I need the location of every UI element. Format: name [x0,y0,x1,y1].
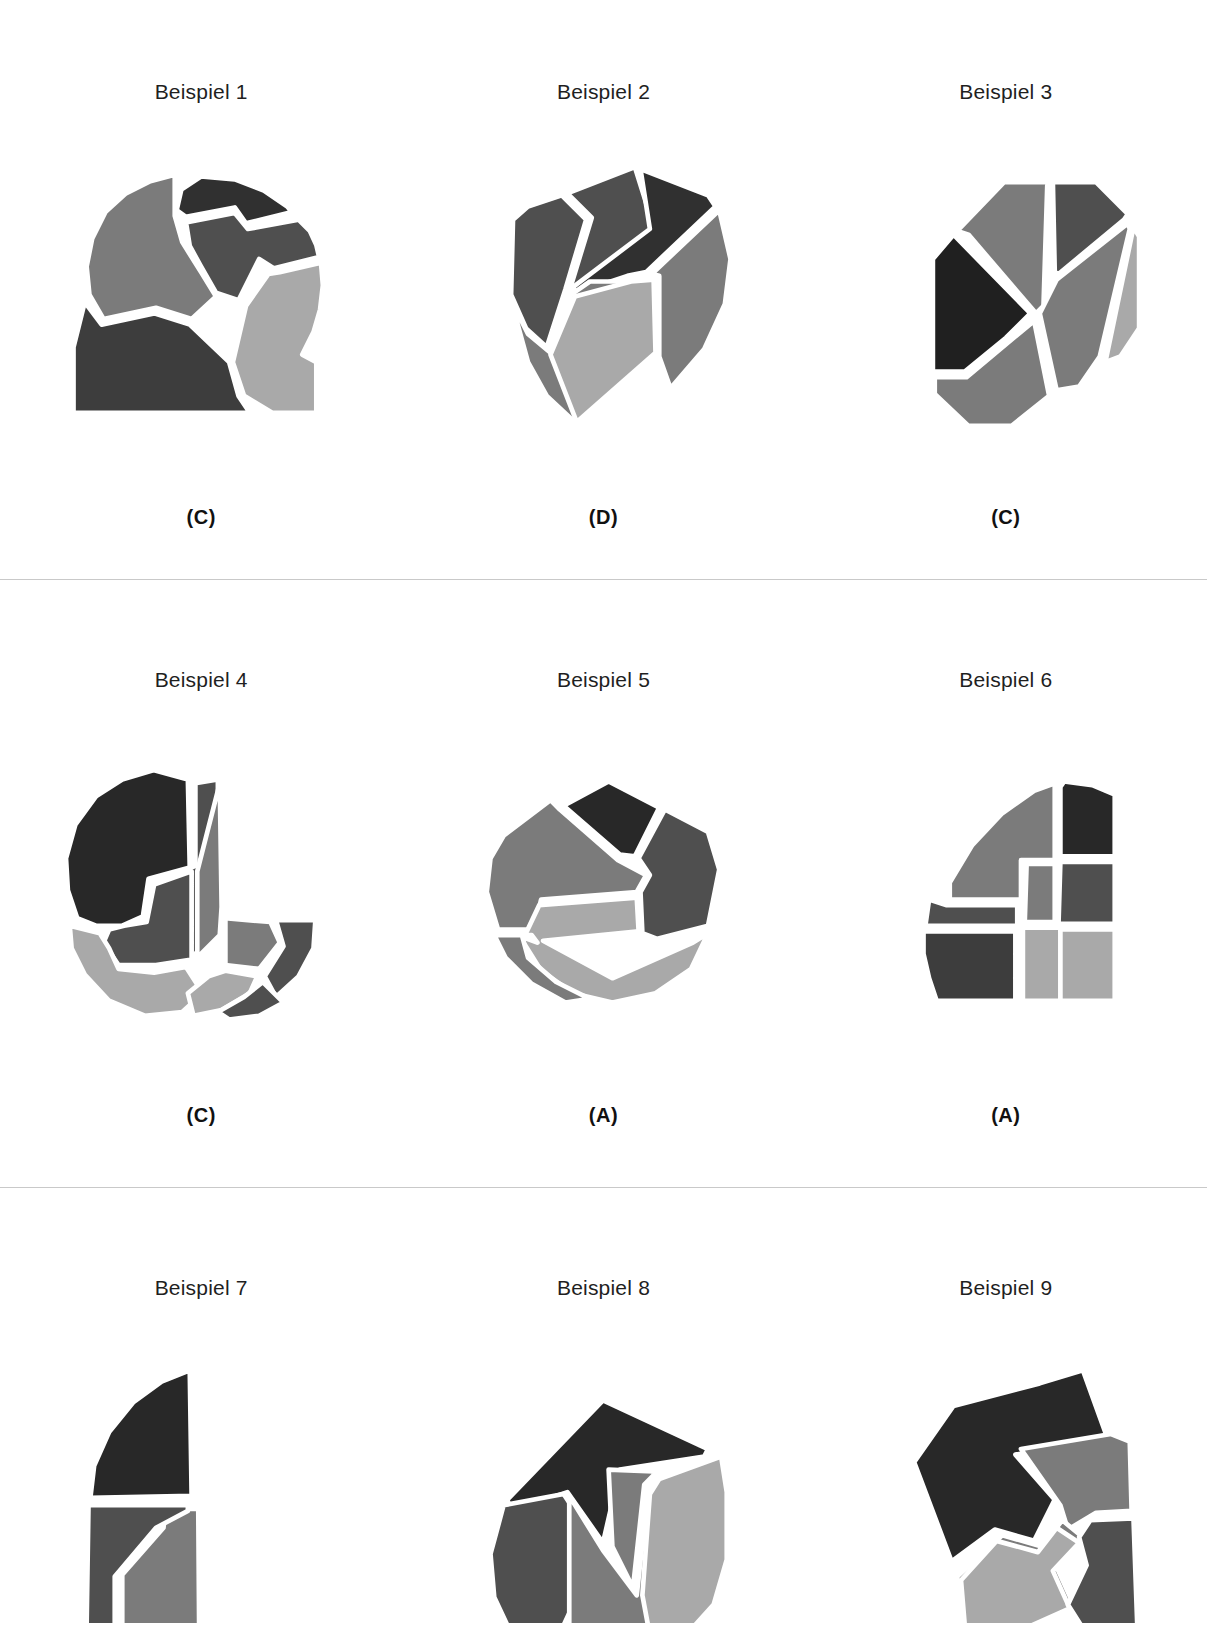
puzzle-piece [925,900,1017,926]
example-answer: (A) [991,1104,1020,1127]
irregular-puzzle-svg [856,1344,1156,1644]
pacman-disc-puzzle-svg [51,742,351,1042]
decagon-puzzle-svg [453,154,753,454]
example-figure-7 [51,1344,351,1644]
example-title: Beispiel 8 [557,1276,650,1300]
example-figure-2 [453,154,753,454]
example-cell-7: Beispiel 7 [0,1188,402,1646]
example-cell-8: Beispiel 8 [402,1188,804,1646]
puzzle-piece [1060,930,1114,1001]
puzzle-piece [551,280,656,423]
example-title: Beispiel 5 [557,668,650,692]
example-answer: (D) [589,506,618,529]
example-cell-4: Beispiel 4 (C) [0,580,402,1188]
example-figure-5 [453,742,753,1042]
example-figure-1 [51,154,351,454]
example-answer: (C) [187,506,216,529]
example-title: Beispiel 6 [959,668,1052,692]
puzzle-piece [1068,1518,1137,1625]
example-figure-4 [51,742,351,1042]
example-figure-8 [453,1344,753,1644]
example-cell-6: Beispiel 6 (A) [805,580,1207,1188]
examples-grid: Beispiel 1 (C) Beispiel 2 (D) Beispiel 3… [0,8,1207,1646]
puzzle-piece [923,931,1015,1000]
puzzle-piece [643,1457,727,1626]
example-title: Beispiel 2 [557,80,650,104]
puzzle-piece [74,302,250,413]
examples-row-1: Beispiel 1 (C) Beispiel 2 (D) Beispiel 3… [0,8,1207,580]
example-answer: (A) [589,1104,618,1127]
page-top-artifact [0,0,1207,8]
quarter-disc-puzzle-3-svg [51,1344,351,1644]
example-answer: (C) [187,1104,216,1127]
heptagon-arrow-puzzle-svg [453,1344,753,1644]
examples-row-2: Beispiel 4 (C) Beispiel 5 (A) Beispiel 6… [0,580,1207,1188]
example-title: Beispiel 9 [959,1276,1052,1300]
puzzle-piece [1060,781,1114,856]
puzzle-piece [91,1370,192,1498]
example-cell-5: Beispiel 5 (A) [402,580,804,1188]
example-cell-9: Beispiel 9 [805,1188,1207,1646]
examples-row-3: Beispiel 7 Beispiel 8 Beispiel 9 [0,1188,1207,1646]
example-figure-6 [856,742,1156,1042]
nonagon-zigzag-puzzle-svg [453,742,753,1042]
example-figure-3 [856,154,1156,454]
quarter-disc-puzzle-svg [51,154,351,454]
example-cell-2: Beispiel 2 (D) [402,8,804,580]
octagon-puzzle-svg [856,154,1156,454]
example-title: Beispiel 1 [155,80,248,104]
example-figure-9 [856,1344,1156,1644]
example-title: Beispiel 3 [959,80,1052,104]
puzzle-piece [1058,862,1114,924]
example-answer: (C) [991,506,1020,529]
example-title: Beispiel 7 [155,1276,248,1300]
example-title: Beispiel 4 [155,668,248,692]
example-cell-3: Beispiel 3 (C) [805,8,1207,580]
example-cell-1: Beispiel 1 (C) [0,8,402,580]
quarter-disc-puzzle-2-svg [856,742,1156,1042]
puzzle-piece [1025,864,1055,922]
